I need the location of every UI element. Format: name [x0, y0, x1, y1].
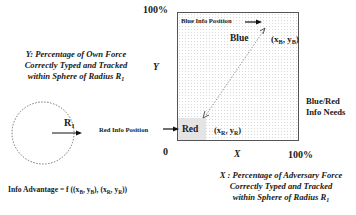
blue-pointer-arrow-icon: [256, 20, 262, 25]
radius-label: R1: [64, 117, 75, 130]
x-desc-line-1: X : Percentage of Adversary Force: [196, 170, 356, 181]
info-needs-label: Blue/Red Info Needs: [306, 96, 345, 118]
blue-arrowhead-icon: [260, 28, 265, 34]
x-axis-description: X : Percentage of Adversary Force Correc…: [196, 170, 356, 206]
blue-info-position-label: Blue Info Position: [181, 17, 232, 24]
x-axis-symbol: X: [234, 149, 240, 159]
blue-region-label: Blue: [230, 33, 248, 43]
x-axis-max-label: 100%: [288, 149, 313, 160]
red-pointer-arrow-icon: [173, 127, 179, 132]
blue-coordinates: (xB, yB): [271, 34, 299, 45]
info-advantage-formula: Info Advantage = f ((xB, yB), (xR, yR)): [8, 185, 127, 195]
origin-label: 0: [163, 146, 168, 157]
info-needs-line-2: Info Needs: [306, 107, 345, 118]
x-desc-line-2: Correctly Typed and Tracked: [196, 181, 356, 192]
radius-arrow-icon: [76, 131, 82, 136]
red-region-label: Red: [182, 124, 198, 134]
red-coordinates: (xR, yR): [214, 125, 241, 136]
red-info-position-label: Red Info Position: [99, 126, 148, 133]
x-desc-line-3: within Sphere of Radius R1: [196, 192, 356, 206]
info-needs-line-1: Blue/Red: [306, 96, 345, 107]
